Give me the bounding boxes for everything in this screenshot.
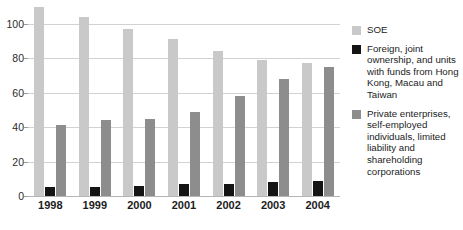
legend-swatch-foreign [352,45,361,54]
x-tick-label-1999: 1999 [73,200,118,211]
legend-label-foreign: Foreign, joint ownership, and units with… [367,43,463,101]
x-tick-label-2003: 2003 [251,200,296,211]
bar-foreign-2004[interactable] [313,181,323,196]
bar-foreign-2000[interactable] [134,186,144,196]
y-tick-label-20: 20 [0,157,24,168]
bar-soe-2000[interactable] [123,29,133,196]
bar-private-2000[interactable] [145,119,155,196]
y-tick-mark-20 [24,162,28,163]
bar-soe-2001[interactable] [168,39,178,196]
y-tick-mark-100 [24,24,28,25]
legend-label-soe: SOE [367,24,463,36]
bar-private-2003[interactable] [279,79,289,196]
bar-private-2001[interactable] [190,112,200,196]
bar-foreign-1999[interactable] [90,187,100,196]
bar-foreign-2003[interactable] [268,182,278,196]
x-tick-label-2000: 2000 [117,200,162,211]
bar-group-1999 [79,4,111,196]
y-tick-mark-80 [24,58,28,59]
y-tick-label-80: 80 [0,53,24,64]
bar-chart-figure: 020406080100 SOE Foreign, joint ownershi… [0,0,463,230]
y-tick-label-100: 100 [0,19,24,30]
axis-baseline [28,196,340,197]
bar-group-2003 [257,4,289,196]
bar-group-2002 [213,4,245,196]
x-tick-label-1998: 1998 [28,200,73,211]
bar-private-1998[interactable] [56,125,66,196]
bar-soe-1998[interactable] [34,7,44,196]
legend-label-private: Private enterprises, self-employed indiv… [367,108,463,178]
y-tick-label-60: 60 [0,88,24,99]
bar-soe-2002[interactable] [213,51,223,196]
x-tick-label-2004: 2004 [295,200,340,211]
y-tick-label-0: 0 [0,191,24,202]
legend-swatch-soe [352,26,361,35]
bar-soe-2004[interactable] [302,63,312,196]
bar-foreign-2001[interactable] [179,184,189,196]
bar-private-2004[interactable] [324,67,334,196]
plot-area [28,4,340,196]
y-tick-mark-40 [24,127,28,128]
bar-private-1999[interactable] [101,120,111,196]
y-tick-mark-60 [24,93,28,94]
bar-foreign-1998[interactable] [45,187,55,196]
bar-private-2002[interactable] [235,96,245,196]
bar-soe-1999[interactable] [79,17,89,196]
chart-legend: SOE Foreign, joint ownership, and units … [352,24,463,184]
legend-item-private[interactable]: Private enterprises, self-employed indiv… [352,108,463,178]
bar-group-2001 [168,4,200,196]
x-tick-label-2001: 2001 [162,200,207,211]
y-axis-tick-labels: 020406080100 [0,4,24,196]
legend-swatch-private [352,110,361,119]
y-tick-label-40: 40 [0,122,24,133]
bar-group-2000 [123,4,155,196]
x-tick-label-2002: 2002 [206,200,251,211]
bar-soe-2003[interactable] [257,60,267,196]
bar-foreign-2002[interactable] [224,184,234,196]
bar-group-2004 [302,4,334,196]
bar-group-1998 [34,4,66,196]
y-tick-mark-0 [24,196,28,197]
legend-item-foreign[interactable]: Foreign, joint ownership, and units with… [352,43,463,101]
legend-item-soe[interactable]: SOE [352,24,463,36]
